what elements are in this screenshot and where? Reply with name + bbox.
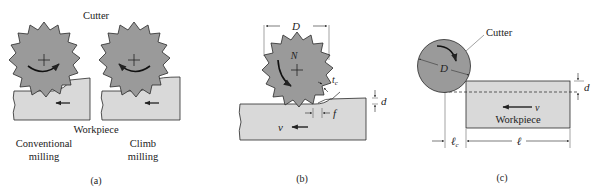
cutter-label: Cutter (486, 27, 513, 38)
depth-label: d (584, 81, 590, 93)
length-label: ℓ (517, 135, 522, 147)
climb-label-line2: milling (128, 151, 159, 162)
cutter: N (262, 32, 333, 107)
diameter-label: D (439, 62, 448, 74)
milling-diagram: Cutter Workpiece Conventional milling Cl… (0, 0, 599, 193)
panel-b: N D tc d f v (b) (239, 20, 387, 185)
workpiece-label: Workpiece (73, 124, 119, 135)
conventional-label-line2: milling (29, 151, 60, 162)
panel-c: D Cutter v Workpiece d ℓc ℓ (c) (418, 27, 591, 184)
caption-c: (c) (496, 172, 507, 184)
velocity-label: v (535, 102, 540, 113)
rotation-label: N (290, 50, 299, 61)
caption-b: (b) (296, 173, 308, 185)
depth-label: d (381, 95, 387, 107)
chip-thickness-label: tc (332, 74, 339, 87)
workpiece-label: Workpiece (495, 114, 541, 125)
cutter-leader (466, 35, 484, 51)
panel-a: Cutter Workpiece Conventional milling Cl… (9, 10, 180, 187)
cutter-label: Cutter (83, 10, 110, 21)
diameter-label: D (291, 20, 300, 32)
approach-length-label: ℓc (451, 135, 460, 149)
conventional-label-line1: Conventional (16, 138, 73, 149)
workpiece (239, 98, 366, 140)
velocity-label: v (278, 121, 283, 133)
caption-a: (a) (90, 175, 101, 187)
climb-label-line1: Climb (130, 138, 156, 149)
